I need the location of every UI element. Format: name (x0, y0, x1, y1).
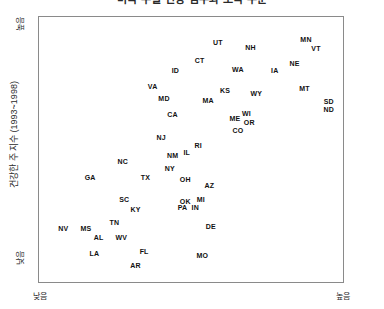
data-point-label: NY (165, 165, 175, 173)
data-point-label: OR (244, 119, 255, 127)
data-point-label: ND (323, 106, 334, 114)
y-axis-title: 건강한 주 지수 (1993~1998) (7, 60, 20, 210)
data-point-label: KY (131, 206, 141, 214)
data-point-label: AL (94, 234, 104, 242)
data-point-label: NC (118, 158, 129, 166)
data-point-label: SC (119, 196, 129, 204)
data-point-label: DE (206, 223, 216, 231)
y-axis-high-label: 높음 (14, 9, 25, 39)
x-axis-low-label: 낮음 (33, 290, 47, 301)
data-point-label: MI (197, 196, 205, 204)
data-point-label: KS (220, 87, 230, 95)
data-point-label: IL (183, 149, 190, 157)
data-point-label: WY (250, 90, 262, 98)
data-point-label: IN (192, 204, 199, 212)
data-point-label: GA (85, 174, 96, 182)
plot-area: UTNHMNVTCTNEIDWAIAVAKSWYMTMDMASDNDCAWIME… (38, 16, 344, 283)
data-point-label: MO (197, 252, 209, 260)
data-point-label: FL (140, 248, 149, 256)
data-point-label: CA (167, 111, 178, 119)
data-point-label: SD (324, 98, 334, 106)
data-point-label: MN (300, 36, 311, 44)
data-point-label: WI (242, 110, 251, 118)
chart-title: 미국 주별 건강 점수와 소득 수준 (0, 0, 384, 5)
data-point-label: NJ (156, 134, 165, 142)
data-point-label: VT (311, 45, 320, 53)
data-point-label: LA (90, 250, 100, 258)
data-point-label: UT (213, 39, 223, 47)
scatter-chart: 미국 주별 건강 점수와 소득 수준 건강한 주 지수 (1993~1998) … (0, 0, 384, 309)
data-point-label: ME (230, 115, 241, 123)
data-point-label: RI (194, 142, 201, 150)
data-point-label: MS (80, 225, 91, 233)
data-point-label: AR (130, 262, 141, 270)
data-point-label: NV (58, 225, 68, 233)
data-point-label: PA (178, 204, 188, 212)
data-point-label: CT (195, 57, 205, 65)
data-point-label: NH (245, 44, 256, 52)
data-point-label: TN (109, 219, 119, 227)
data-point-label: AZ (205, 182, 215, 190)
data-point-label: CO (232, 127, 243, 135)
data-point-label: TX (141, 174, 150, 182)
data-point-label: NM (167, 152, 178, 160)
data-point-label: IA (271, 67, 278, 75)
data-point-label: MT (299, 85, 310, 93)
data-point-label: WA (232, 66, 244, 74)
data-point-label: ID (172, 67, 179, 75)
x-axis-high-label: 높음 (336, 290, 350, 301)
data-point-label: WV (116, 234, 128, 242)
data-point-label: MD (158, 95, 169, 103)
data-point-label: NE (290, 60, 300, 68)
data-point-label: MA (202, 97, 213, 105)
data-point-label: VA (148, 83, 158, 91)
y-axis-low-label: 낮음 (14, 243, 25, 273)
data-point-label: OH (180, 176, 191, 184)
